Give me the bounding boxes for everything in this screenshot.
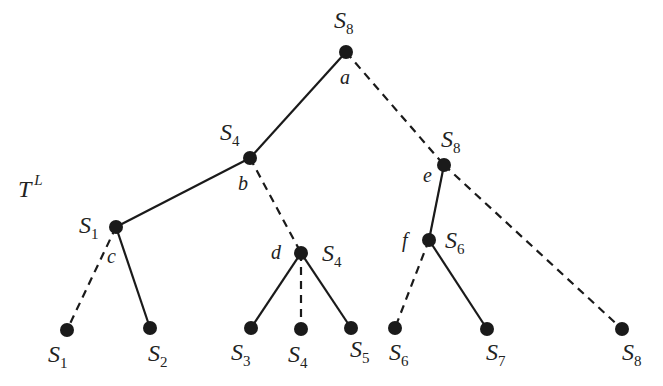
edge-a-e bbox=[346, 52, 444, 165]
leaf-s1-label: S1 bbox=[48, 341, 68, 371]
node-b-letter: b bbox=[238, 172, 248, 194]
leaf-nodes bbox=[60, 321, 629, 337]
leaf-s2-label: S2 bbox=[148, 340, 168, 370]
leaf-s6-label: S6 bbox=[389, 339, 409, 369]
tree-diagram: TL S8 S4 S8 S1 S4 S6 a b e c d f S1 S2 S… bbox=[0, 0, 663, 386]
node-c bbox=[109, 220, 123, 234]
leaf-s1 bbox=[60, 323, 74, 337]
node-d-letter: d bbox=[271, 241, 282, 263]
node-d bbox=[294, 246, 308, 260]
node-f-letter: f bbox=[402, 229, 410, 252]
node-a bbox=[339, 45, 353, 59]
edge-c-s2 bbox=[116, 227, 150, 328]
node-b-strategy-label: S4 bbox=[220, 119, 240, 149]
tree-title: TL bbox=[18, 172, 43, 202]
node-e-strategy-label: S8 bbox=[441, 126, 461, 156]
leaf-s4 bbox=[294, 322, 308, 336]
edge-a-b bbox=[250, 52, 346, 158]
leaf-s6 bbox=[388, 321, 402, 335]
leaf-s5-label: S5 bbox=[350, 336, 370, 366]
leaf-s2 bbox=[143, 321, 157, 335]
node-b bbox=[243, 151, 257, 165]
node-f bbox=[422, 233, 436, 247]
leaf-s8 bbox=[615, 322, 629, 336]
node-a-letter: a bbox=[340, 66, 350, 88]
leaf-s7-label: S7 bbox=[486, 339, 506, 369]
leaf-s8-label: S8 bbox=[622, 339, 642, 369]
node-f-strategy-label: S6 bbox=[445, 227, 465, 257]
node-a-strategy-label: S8 bbox=[334, 7, 354, 37]
leaf-s7 bbox=[480, 322, 494, 336]
edges bbox=[67, 52, 622, 330]
leaf-s5 bbox=[344, 321, 358, 335]
edge-b-d bbox=[250, 158, 301, 253]
node-e bbox=[437, 158, 451, 172]
node-c-letter: c bbox=[107, 245, 116, 267]
node-d-strategy-label: S4 bbox=[322, 240, 342, 270]
internal-nodes bbox=[109, 45, 451, 260]
leaf-s3-label: S3 bbox=[231, 339, 251, 369]
tree-canvas: TL S8 S4 S8 S1 S4 S6 a b e c d f S1 S2 S… bbox=[0, 0, 663, 386]
leaf-s3 bbox=[244, 321, 258, 335]
edge-d-s3 bbox=[251, 253, 301, 328]
edge-c-s1 bbox=[67, 227, 116, 330]
leaf-s4-label: S4 bbox=[288, 341, 308, 371]
node-e-letter: e bbox=[423, 164, 432, 186]
node-c-strategy-label: S1 bbox=[79, 212, 99, 242]
edge-f-s6 bbox=[395, 240, 429, 328]
edge-b-c bbox=[116, 158, 250, 227]
